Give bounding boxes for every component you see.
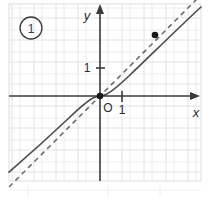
plot-background	[9, 4, 201, 181]
coordinate-plot: y x 1 O 1 1	[0, 0, 210, 200]
y-tick-label-1: 1	[84, 61, 91, 75]
x-tick-label-1: 1	[119, 103, 126, 117]
origin-point	[97, 93, 104, 100]
problem-number-label: 1	[28, 22, 35, 36]
origin-label: O	[103, 101, 112, 115]
curve-point	[152, 32, 159, 39]
figure-container: y x 1 O 1 1	[0, 0, 210, 200]
x-axis-label: x	[192, 105, 200, 120]
bottom-strip	[9, 186, 201, 196]
